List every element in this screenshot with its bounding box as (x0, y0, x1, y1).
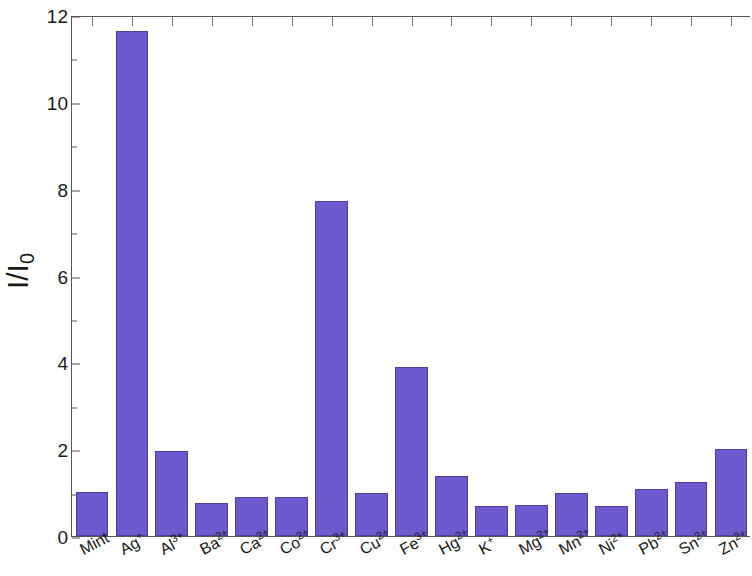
x-tick-mark-top (651, 17, 652, 26)
bar (395, 367, 428, 536)
y-tick-label: 2 (18, 440, 68, 462)
x-tick-mark-top (132, 17, 133, 26)
x-tick-mark-top (451, 17, 452, 26)
y-tick-mark (72, 364, 80, 365)
bar (315, 201, 348, 536)
y-tick-mark (72, 17, 80, 18)
x-tick-mark-top (332, 17, 333, 26)
bar (155, 451, 188, 536)
x-tick-mark-top (691, 17, 692, 26)
y-axis-label-subscript: 0 (16, 253, 38, 264)
x-tick-mark-top (172, 17, 173, 26)
x-tick-mark-top (571, 17, 572, 26)
x-tick-mark-top (252, 17, 253, 26)
x-tick-mark-top (372, 17, 373, 26)
y-tick-label: 12 (18, 6, 68, 28)
bar (475, 506, 508, 536)
y-tick-mark-minor (72, 234, 77, 235)
y-tick-mark-minor (72, 320, 77, 321)
y-tick-mark (72, 103, 80, 104)
y-tick-mark-minor (72, 147, 77, 148)
y-tick-mark-minor (72, 407, 77, 408)
y-tick-mark (72, 451, 80, 452)
x-tick-mark-top (212, 17, 213, 26)
plot-area: 024681012 (71, 16, 750, 537)
y-tick-label: 6 (18, 267, 68, 289)
y-tick-mark (72, 190, 80, 191)
y-tick-mark-minor (72, 60, 77, 61)
x-tick-mark-top (611, 17, 612, 26)
x-tick-mark-top (491, 17, 492, 26)
x-tick-mark-top (92, 17, 93, 26)
y-tick-label: 10 (18, 93, 68, 115)
y-tick-label: 4 (18, 353, 68, 375)
x-tick-mark-top (412, 17, 413, 26)
y-tick-mark (72, 277, 80, 278)
y-tick-label: 8 (18, 180, 68, 202)
x-tick-mark-top (731, 17, 732, 26)
y-tick-label: 0 (18, 527, 68, 549)
bar (715, 449, 748, 536)
x-tick-mark-top (531, 17, 532, 26)
bar (116, 31, 149, 536)
x-tick-mark-top (292, 17, 293, 26)
x-tick-label: K+ (476, 535, 500, 559)
y-tick-mark (72, 538, 80, 539)
